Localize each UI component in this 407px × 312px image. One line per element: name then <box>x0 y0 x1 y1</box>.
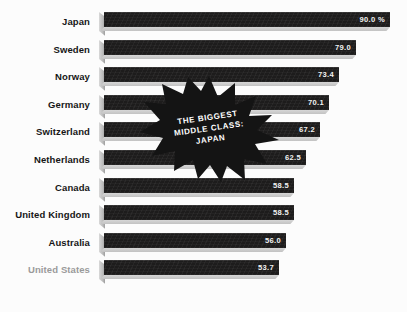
bar-category-label: Norway <box>0 67 90 86</box>
bar-base-face <box>100 137 320 141</box>
bar-3d-wrapper: 58.5 <box>104 205 294 224</box>
bar-base-face <box>100 165 306 169</box>
bar-value-label: 58.5 <box>273 178 289 193</box>
bar-3d-wrapper: 56.0 <box>104 233 286 252</box>
bar-value-label: 62.5 <box>285 150 301 165</box>
bar-3d-wrapper: 67.2 <box>104 122 320 141</box>
bar-body: 53.7 <box>104 260 279 275</box>
bar-category-label: United Kingdom <box>0 205 90 224</box>
bar-category-label: United States <box>0 260 90 279</box>
bar-3d-wrapper: 58.5 <box>104 178 294 197</box>
bar-category-label: Sweden <box>0 40 90 59</box>
bar-body: 58.5 <box>104 178 294 193</box>
bar-row: Switzerland67.2 <box>0 122 407 150</box>
bar-row: Netherlands62.5 <box>0 150 407 178</box>
bar-value-label: 90.0 % <box>360 12 385 27</box>
bar-base-face <box>100 27 390 31</box>
bar-row: Sweden79.0 <box>0 40 407 68</box>
bar-base-face <box>100 248 286 252</box>
bar-category-label: Australia <box>0 233 90 252</box>
bar-3d-wrapper: 73.4 <box>104 67 339 86</box>
bar-row: Australia56.0 <box>0 233 407 261</box>
bar-row: United Kingdom58.5 <box>0 205 407 233</box>
bar-body: 56.0 <box>104 233 286 248</box>
bar-row: United States53.7 <box>0 260 407 288</box>
bar-base-face <box>100 110 329 114</box>
bar-row: Canada58.5 <box>0 178 407 206</box>
bar-value-label: 67.2 <box>299 122 315 137</box>
bar-body: 62.5 <box>104 150 306 165</box>
bar-category-label: Netherlands <box>0 150 90 169</box>
bar-category-label: Canada <box>0 178 90 197</box>
bar-value-label: 73.4 <box>318 67 334 82</box>
bar-base-face <box>100 55 356 59</box>
bar-category-label: Japan <box>0 12 90 31</box>
bar-3d-wrapper: 70.1 <box>104 95 329 114</box>
bar-value-label: 56.0 <box>265 233 281 248</box>
bar-body: 73.4 <box>104 67 339 82</box>
bar-base-face <box>100 82 339 86</box>
bar-body: 70.1 <box>104 95 329 110</box>
bar-row: Japan90.0 % <box>0 12 407 40</box>
bar-3d-wrapper: 53.7 <box>104 260 279 279</box>
bar-base-face <box>100 193 294 197</box>
bar-chart: Japan90.0 %Sweden79.0Norway73.4Germany70… <box>0 0 407 312</box>
bar-body: 79.0 <box>104 40 356 55</box>
bar-row: Norway73.4 <box>0 67 407 95</box>
bar-base-face <box>100 220 294 224</box>
bar-value-label: 79.0 <box>335 40 351 55</box>
bar-body: 67.2 <box>104 122 320 137</box>
bar-3d-wrapper: 62.5 <box>104 150 306 169</box>
bar-row: Germany70.1 <box>0 95 407 123</box>
bar-value-label: 53.7 <box>258 260 274 275</box>
bar-value-label: 58.5 <box>273 205 289 220</box>
bar-body: 90.0 % <box>104 12 390 27</box>
bar-category-label: Switzerland <box>0 122 90 141</box>
bar-category-label: Germany <box>0 95 90 114</box>
bar-base-face <box>100 275 279 279</box>
bar-body: 58.5 <box>104 205 294 220</box>
bar-3d-wrapper: 79.0 <box>104 40 356 59</box>
bar-value-label: 70.1 <box>308 95 324 110</box>
bar-3d-wrapper: 90.0 % <box>104 12 390 31</box>
